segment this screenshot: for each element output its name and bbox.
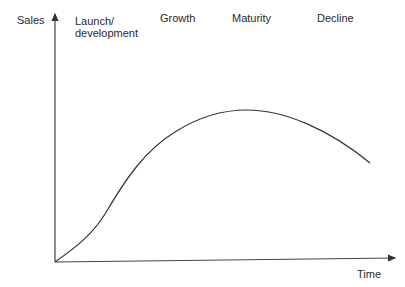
stage-decline: Decline bbox=[317, 12, 354, 24]
life-cycle-diagram bbox=[0, 0, 405, 287]
stage-maturity: Maturity bbox=[232, 12, 271, 24]
stage-launch-line2: development bbox=[75, 27, 138, 39]
stage-launch-line1: Launch/ bbox=[75, 15, 138, 27]
y-axis-label: Sales bbox=[17, 14, 45, 26]
stage-growth: Growth bbox=[160, 12, 195, 24]
sales-curve bbox=[55, 110, 370, 262]
x-axis bbox=[55, 258, 395, 262]
x-axis-label: Time bbox=[357, 268, 381, 280]
stage-launch: Launch/ development bbox=[75, 15, 138, 39]
